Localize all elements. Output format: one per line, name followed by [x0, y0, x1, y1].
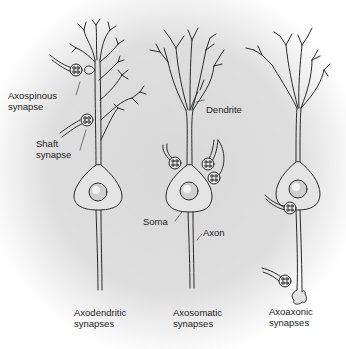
label-axon: Axon: [203, 227, 225, 238]
label-shaft-synapse: Shaft synapse: [36, 138, 71, 160]
label-text: Dendrite: [206, 104, 242, 115]
neuron-axosomatic: [150, 28, 224, 288]
caption-axodendritic: Axodendritic synapses: [74, 307, 126, 329]
axon: [296, 210, 297, 290]
axoaxonic-synapse-lower: [262, 268, 306, 304]
label-soma: Soma: [143, 216, 168, 227]
caption-axoaxonic: Axoaxonic synapses: [269, 306, 313, 328]
caption-line: Axosomatic: [173, 307, 222, 318]
axon: [188, 212, 190, 288]
caption-line: synapses: [269, 317, 313, 328]
label-line: Axospinous: [8, 90, 57, 101]
label-line: synapse: [8, 101, 57, 112]
label-dendrite: Dendrite: [206, 104, 242, 115]
caption-line: synapses: [74, 318, 126, 329]
label-line: synapse: [36, 149, 71, 160]
caption-line: Axodendritic: [74, 307, 126, 318]
label-axospinous-synapse: Axospinous synapse: [8, 90, 57, 112]
label-text: Soma: [143, 216, 168, 227]
neuron-diagram: [0, 0, 346, 349]
label-text: Axon: [203, 227, 225, 238]
neuron-axoaxonic: [246, 28, 330, 304]
dendritic-tree: [70, 19, 146, 165]
caption-line: Axoaxonic: [269, 306, 313, 317]
shaft-synapse: [60, 114, 93, 137]
axon: [96, 210, 98, 290]
caption-axosomatic: Axosomatic synapses: [173, 307, 222, 329]
dendritic-tree: [246, 28, 330, 162]
label-line: Shaft: [36, 138, 71, 149]
caption-line: synapses: [173, 318, 222, 329]
axospinous-synapse: [50, 55, 95, 76]
